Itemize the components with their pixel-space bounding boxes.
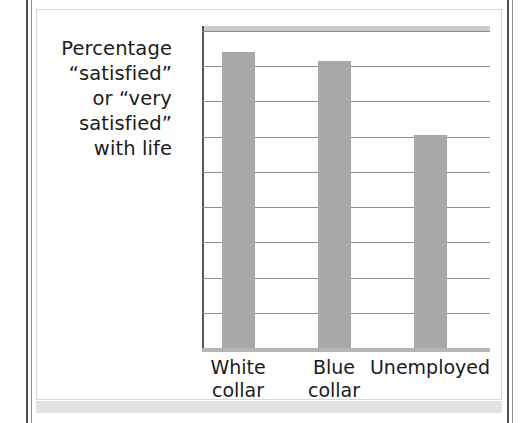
y-axis-caption-line-2: “satisfied” — [12, 61, 172, 86]
y-axis-caption: Percentage “satisfied” or “very satisfie… — [12, 36, 172, 161]
plot-area: 0102030405060708090% — [202, 26, 490, 353]
bar — [222, 52, 255, 348]
gridline — [202, 31, 490, 32]
y-axis-caption-line-4: satisfied” — [12, 111, 172, 136]
y-axis-caption-line-1: Percentage — [12, 36, 172, 61]
y-axis-line — [202, 26, 204, 351]
chart-figure: Percentage “satisfied” or “very satisfie… — [0, 0, 524, 423]
x-axis-category-label: Unemployed — [360, 356, 500, 379]
y-axis-caption-line-3: or “very — [12, 86, 172, 111]
page-gutter-rule-right-thin — [512, 0, 513, 423]
chart-bottom-band — [36, 401, 502, 413]
bar — [318, 61, 351, 348]
x-axis-line — [202, 348, 490, 352]
page-gutter-rule-right — [507, 0, 509, 423]
bar — [414, 135, 447, 348]
y-axis-caption-line-5: with life — [12, 136, 172, 161]
